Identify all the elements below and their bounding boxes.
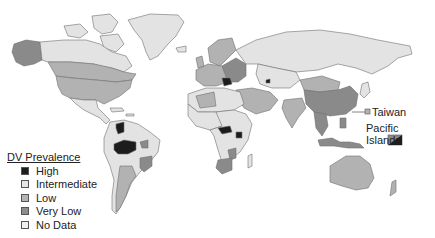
legend-swatch-low [21, 194, 29, 202]
legend-label: High [36, 165, 59, 177]
legend: DV Prevalence High Intermediate Low Very… [7, 151, 97, 232]
legend-item-high: High [21, 164, 97, 178]
region-new-zealand [390, 180, 396, 196]
legend-item-low: Low [21, 191, 97, 205]
region-iceland [176, 46, 186, 52]
region-venezuela [116, 122, 124, 134]
legend-label: Intermediate [36, 178, 97, 190]
region-australia [330, 156, 374, 190]
pacific-islands-label: Pacific Islands [366, 122, 435, 146]
taiwan-swatch [365, 109, 370, 114]
region-se-asia [314, 112, 328, 136]
region-indonesia [318, 138, 364, 148]
region-japan [360, 82, 370, 98]
legend-swatch-very-low [21, 207, 29, 215]
legend-item-very-low: Very Low [21, 205, 97, 219]
legend-swatch-high [21, 167, 29, 175]
legend-item-no-data: No Data [21, 218, 97, 232]
region-north-africa [188, 88, 244, 112]
legend-swatch-intermediate [21, 180, 29, 188]
region-alaska [12, 40, 42, 66]
region-east-africa-spot [236, 132, 242, 138]
region-philippines [340, 118, 346, 128]
legend-swatch-no-data [21, 221, 29, 229]
region-argentina [116, 166, 136, 212]
taiwan-label: Taiwan [372, 106, 406, 118]
region-mongolia [300, 76, 340, 92]
legend-label: Low [36, 192, 56, 204]
region-caribbean [110, 108, 134, 116]
region-greenland [128, 14, 184, 60]
region-south-africa [216, 158, 232, 174]
region-uk [196, 56, 204, 68]
region-madagascar [248, 154, 252, 168]
legend-label: No Data [36, 219, 76, 231]
legend-label: Very Low [36, 205, 81, 217]
region-romania [222, 78, 232, 86]
legend-item-intermediate: Intermediate [21, 178, 97, 192]
legend-title: DV Prevalence [7, 151, 97, 163]
region-india [282, 98, 306, 128]
region-brazil-se [140, 156, 152, 172]
region-kazakhstan-spot [266, 79, 270, 83]
